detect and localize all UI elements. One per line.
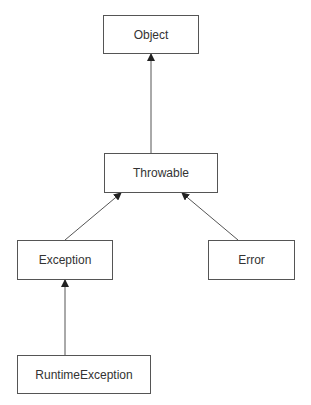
edges-layer [0, 0, 311, 405]
edge-error-to-throwable [182, 193, 238, 240]
node-exception-label: Exception [39, 253, 92, 267]
node-object-label: Object [134, 28, 169, 42]
node-throwable-label: Throwable [133, 166, 189, 180]
node-error: Error [208, 240, 295, 280]
node-exception: Exception [17, 240, 113, 280]
node-object: Object [103, 15, 199, 54]
edge-exception-to-throwable [65, 193, 121, 240]
node-runtime-exception: RuntimeException [17, 355, 151, 394]
node-throwable: Throwable [104, 153, 218, 193]
node-runtime-exception-label: RuntimeException [35, 368, 132, 382]
node-error-label: Error [238, 253, 265, 267]
